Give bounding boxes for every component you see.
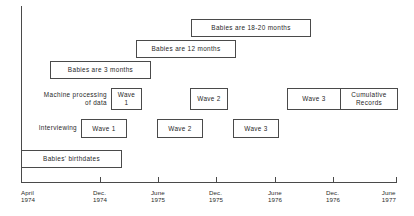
timeline-bar-interviewing-wave-2: Wave 2 (157, 119, 203, 138)
axis-tick-label: June 1975 (151, 189, 165, 204)
timeline-horizontal-axis (21, 182, 397, 183)
axis-tick-label: June 1977 (382, 189, 396, 204)
timeline-bar-babies-3-months: Babies are 3 months (50, 61, 151, 79)
axis-tick-label: April 1974 (21, 189, 35, 204)
axis-tick-label: Dec. 1976 (326, 189, 340, 204)
axis-tick (21, 177, 22, 183)
axis-tick (216, 177, 217, 183)
timeline-bar-machine-wave-3: Wave 3 (287, 88, 340, 110)
timeline-bar-machine-wave-1: Wave 1 (111, 88, 142, 110)
axis-tick (158, 177, 159, 183)
axis-tick-label: Dec. 1974 (93, 189, 107, 204)
axis-tick-label: Dec. 1975 (209, 189, 223, 204)
timeline-bar-babies-18-20-months: Babies are 18-20 months (191, 19, 311, 37)
axis-tick (275, 177, 276, 183)
timeline-bar-interviewing-wave-3: Wave 3 (233, 119, 279, 138)
timeline-chart: April 1974Dec. 1974June 1975Dec. 1975Jun… (0, 0, 414, 216)
timeline-bar-machine-wave-2: Wave 2 (190, 88, 228, 110)
axis-tick (100, 177, 101, 183)
timeline-bar-interviewing-wave-1: Wave 1 (81, 119, 127, 138)
timeline-bar-babies-12-months: Babies are 12 months (136, 40, 236, 58)
timeline-bar-babies-birthdates: Babies' birthdates (21, 150, 122, 168)
axis-tick-label: June 1976 (268, 189, 282, 204)
row-label: Machine processing of data (29, 91, 107, 107)
axis-tick (396, 177, 397, 183)
timeline-bar-machine-cumulative-records: Cumulative Records (340, 88, 398, 110)
axis-tick (333, 177, 334, 183)
row-label: Interviewing (29, 124, 77, 132)
